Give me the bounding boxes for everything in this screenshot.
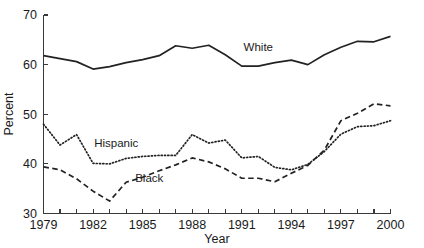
y-tick-label: 70 xyxy=(23,8,37,22)
x-tick-label: 1985 xyxy=(129,218,157,232)
y-tick-label: 50 xyxy=(23,108,37,122)
series-line-black xyxy=(44,104,391,201)
y-axis-tick-labels: 3040506070 xyxy=(23,8,37,221)
y-tick-label: 40 xyxy=(23,157,37,171)
y-tick-label: 60 xyxy=(23,58,37,72)
x-tick-label: 1988 xyxy=(178,218,206,232)
x-tick-label: 1979 xyxy=(30,218,58,232)
series-label-black: Black xyxy=(135,172,163,184)
series-label-hispanic: Hispanic xyxy=(94,137,138,149)
x-axis-tick-labels: 19791982198519881991199419972000 xyxy=(30,218,405,232)
x-axis-title: Year xyxy=(204,232,229,246)
x-tick-label: 2000 xyxy=(377,218,405,232)
y-axis-ticks xyxy=(44,15,49,214)
x-tick-label: 1982 xyxy=(79,218,107,232)
x-axis-ticks xyxy=(44,209,391,214)
chart-figure: 3040506070 19791982198519881991199419972… xyxy=(0,0,424,248)
series-line-white xyxy=(44,36,391,69)
y-axis-title: Percent xyxy=(2,92,16,136)
line-chart: 3040506070 19791982198519881991199419972… xyxy=(0,0,424,248)
x-tick-label: 1991 xyxy=(228,218,256,232)
x-tick-label: 1997 xyxy=(327,218,355,232)
data-series-group xyxy=(44,36,391,201)
x-tick-label: 1994 xyxy=(277,218,305,232)
series-label-white: White xyxy=(244,41,273,53)
axes xyxy=(44,15,391,214)
